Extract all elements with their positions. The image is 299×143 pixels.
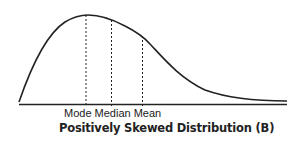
distribution-curve <box>19 15 287 102</box>
marker-labels: Mode Median Mean <box>64 107 161 119</box>
diagram-title: Positively Skewed Distribution (B) <box>59 121 274 135</box>
